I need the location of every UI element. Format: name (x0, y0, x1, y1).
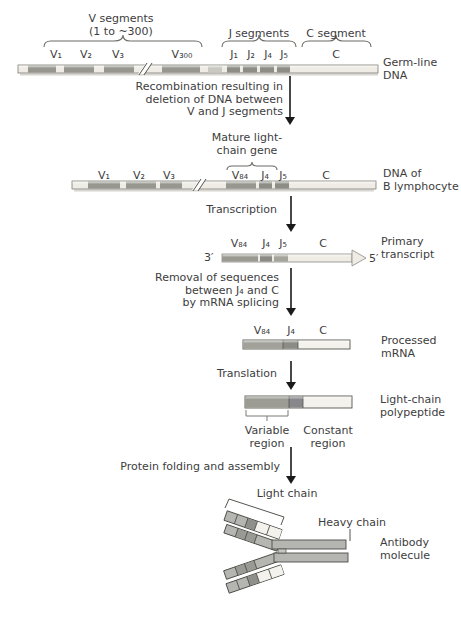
polypeptide-label-line1: Light-chain (380, 393, 445, 406)
splicing-arrow (286, 268, 296, 316)
blymph-dna-label-line2: B lymphocyte (383, 180, 459, 193)
primary-transcript-label: Primary transcript (381, 235, 434, 261)
germline-dna-bar (18, 63, 378, 76)
germline-segment-j5: J₅ (272, 48, 296, 61)
blymph-dna-label-line1: DNA of (383, 167, 459, 180)
germline-segment-c: C (318, 48, 354, 61)
germline-segment-v2: V₂ (68, 48, 104, 61)
blymph-segment-j5: J₅ (271, 169, 295, 182)
c-segment-group-label: C segment (276, 27, 396, 40)
primary-transcript-bar (222, 250, 366, 266)
polypeptide-label-line2: polypeptide (380, 406, 445, 419)
chain-connector (278, 549, 286, 553)
light-chain-polypeptide-bar (245, 396, 352, 421)
antibody-molecule-drawing (220, 499, 350, 593)
antibody-molecule-label-line2: molecule (380, 549, 430, 562)
translation-step-label: Translation (177, 367, 277, 380)
blymph-segment-c: C (308, 169, 344, 182)
three-prime-label: 3′ (204, 251, 214, 264)
five-prime-label: 5′ (369, 252, 379, 265)
antibody-molecule-label: Antibody molecule (380, 536, 430, 562)
processed-mrna-bar (243, 340, 350, 349)
transcript-arrowhead (352, 250, 366, 266)
v-segments-count-label: (1 to ~300) (61, 25, 181, 38)
primary-transcript-label-line1: Primary (381, 235, 434, 248)
germline-dna-label-line2: DNA (383, 69, 437, 82)
figure-light-chain-gene-rearrangement: V segments (1 to ~300) J segments C segm… (0, 0, 461, 627)
processed-mrna-label-line2: mRNA (381, 347, 436, 360)
heavy-chain-bottom-bar (274, 553, 348, 562)
translation-arrow (286, 361, 296, 390)
recombination-line1: Recombination resulting in (103, 81, 283, 94)
recombination-line3: V and J segments (103, 106, 283, 119)
processed-mrna-label: Processed mRNA (381, 334, 436, 360)
recombination-step-label: Recombination resulting in deletion of D… (103, 81, 283, 119)
blymph-segment-v3: V₃ (151, 169, 187, 182)
folding-step-label: Protein folding and assembly (110, 460, 280, 473)
transcription-step-label: Transcription (177, 203, 277, 216)
heavy-chain-label: Heavy chain (318, 516, 386, 529)
transcription-arrow (286, 196, 296, 232)
splicing-step-label: Removal of sequences between J₄ and C by… (119, 272, 279, 310)
mrna-segment-c: C (305, 324, 341, 337)
transcript-segment-v84: V₈₄ (219, 237, 259, 250)
recombination-arrow (285, 76, 295, 125)
mature-gene-line1: Mature light- (187, 131, 307, 144)
processed-mrna-label-line1: Processed (381, 334, 436, 347)
light-chain-label: Light chain (247, 487, 327, 500)
variable-region-bracket (246, 410, 288, 421)
heavy-chain-top-bar (272, 540, 346, 549)
polypeptide-label: Light-chain polypeptide (380, 393, 445, 419)
mature-gene-label: Mature light- chain gene (187, 131, 307, 157)
antibody-molecule-label-line1: Antibody (380, 536, 430, 549)
splicing-line3: by mRNA splicing (119, 297, 279, 310)
splicing-line1: Removal of sequences (119, 272, 279, 285)
constant-region-label: Constant region (288, 424, 368, 450)
germline-segment-v300: V₃₀₀ (160, 48, 204, 61)
germline-dna-label-line1: Germ-line (383, 56, 437, 69)
constant-region-line2: region (288, 437, 368, 450)
mature-gene-line2: chain gene (187, 144, 307, 157)
germline-dna-label: Germ-line DNA (383, 56, 437, 82)
constant-region-line1: Constant (288, 424, 368, 437)
folding-arrow (286, 447, 296, 484)
blymph-segment-v1: V₁ (86, 169, 122, 182)
blymph-dna-label: DNA of B lymphocyte (383, 167, 459, 193)
transcript-segment-c: C (305, 237, 341, 250)
primary-transcript-label-line2: transcript (381, 248, 434, 261)
mrna-segment-v84: V₈₄ (242, 324, 282, 337)
transcript-segment-j5: J₅ (271, 237, 295, 250)
mrna-segment-j4: J₄ (279, 324, 303, 337)
v-segments-group-label: V segments (61, 12, 181, 25)
germline-segment-v3: V₃ (100, 48, 136, 61)
